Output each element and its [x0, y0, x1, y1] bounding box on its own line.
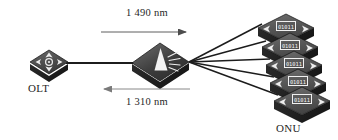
diagram-canvas: 01011 01011 — [0, 0, 338, 140]
onu-display-text: 01011 — [282, 43, 298, 49]
upstream-wavelength-label: 1 310 nm — [126, 96, 168, 107]
onu-display-text: 01011 — [286, 61, 302, 67]
downstream-wavelength-label: 1 490 nm — [126, 7, 168, 18]
onu-stack[interactable]: 01011 01011 — [258, 14, 330, 123]
onu-display-text: 01011 — [294, 97, 310, 103]
olt-hub-dot — [48, 61, 50, 63]
onu-label: ONU — [276, 122, 301, 134]
onu-display-text: 01011 — [290, 79, 306, 85]
onu-display-text: 01011 — [278, 24, 294, 30]
olt-node[interactable] — [30, 50, 68, 82]
diagram-svg: 01011 01011 — [0, 0, 338, 140]
olt-label: OLT — [28, 82, 49, 94]
splitter-node[interactable] — [132, 43, 189, 89]
